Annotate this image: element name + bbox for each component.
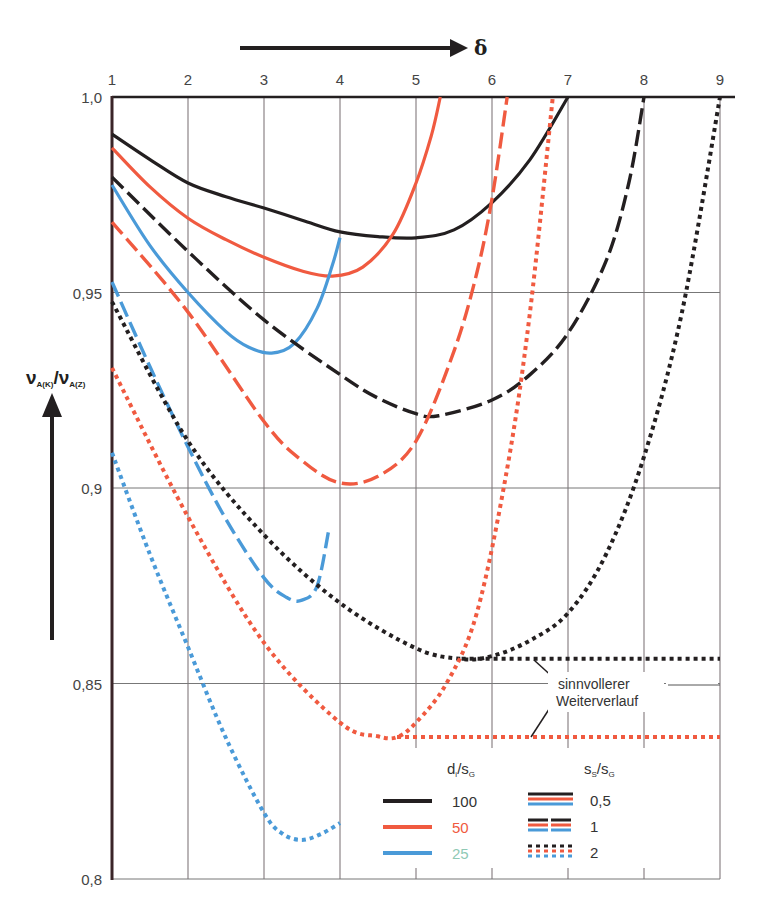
annotation-line-2: Weiterverlauf: [556, 693, 638, 709]
x-tick-label: 2: [184, 71, 192, 88]
series-line: [112, 97, 553, 738]
x-tick-labels: 123456789: [108, 71, 724, 88]
x-tick-label: 3: [260, 71, 268, 88]
annotation-line-1: sinnvollerer: [558, 676, 630, 692]
y-tick-labels: 1,00,950,90,850,8: [73, 89, 102, 888]
x-tick-label: 6: [488, 71, 496, 88]
legend-style-label: 0,5: [590, 792, 611, 809]
y-axis-title: νA(K)/νA(Z): [26, 367, 86, 389]
x-direction-arrow: [240, 39, 468, 57]
legend-color-label: 100: [452, 793, 477, 810]
series-line: [112, 282, 329, 601]
x-tick-label: 5: [412, 71, 420, 88]
x-tick-label: 1: [108, 71, 116, 88]
annotation: sinnvollerer Weiterverlauf: [531, 660, 720, 737]
chart: δ νA(K)/νA(Z) 123456789 1,00,950,90,850,…: [0, 0, 757, 914]
legend-color-label: 50: [452, 819, 469, 836]
legend-style-label: 2: [590, 844, 598, 861]
legend-style-label: 1: [590, 818, 598, 835]
y-tick-label: 0,8: [81, 871, 102, 888]
svg-text:νA(K)/νA(Z): νA(K)/νA(Z): [26, 367, 86, 389]
series-line: [112, 97, 440, 276]
x-tick-label: 8: [640, 71, 648, 88]
series-line: [112, 97, 507, 484]
y-tick-label: 0,95: [73, 285, 102, 302]
legend: di/sG 1005025 sS/sG 0,512: [376, 748, 712, 868]
x-axis-title: δ: [474, 36, 487, 60]
series-line: [112, 453, 340, 840]
x-tick-label: 4: [336, 71, 344, 88]
y-tick-label: 0,9: [81, 480, 102, 497]
y-direction-arrow: [42, 393, 62, 640]
y-tick-label: 1,0: [81, 89, 102, 106]
y-tick-label: 0,85: [73, 676, 102, 693]
legend-color-label: 25: [452, 845, 469, 862]
x-tick-label: 7: [564, 71, 572, 88]
x-tick-label: 9: [716, 71, 724, 88]
series-line: [112, 97, 644, 417]
